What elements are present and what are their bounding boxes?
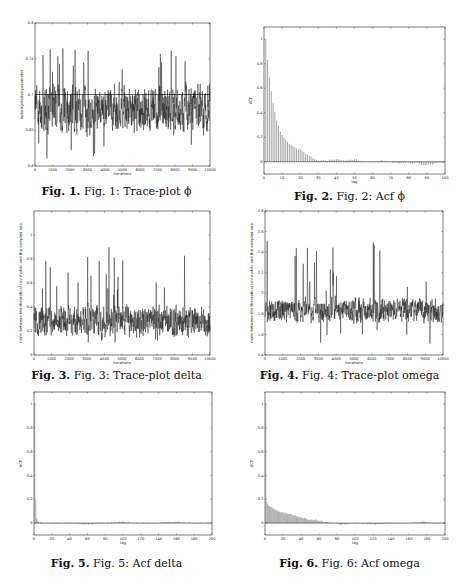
plot-area [34, 404, 212, 525]
x-tick-label: 0 [33, 537, 36, 541]
x-tick-label: 120 [370, 537, 378, 541]
x-tick-label: 20 [281, 537, 286, 541]
caption-text: Fig. 5: Acf delta [93, 557, 182, 570]
x-tick-label: 160 [173, 537, 181, 541]
x-tick-label: 180 [424, 537, 432, 541]
y-tick-label: 0.6 [27, 450, 33, 454]
x-tick-label: 40 [299, 537, 304, 541]
y-tick-label: 0.4 [27, 474, 33, 478]
figure-6-acf-omega: 02040608010012014016018020000.20.40.60.8… [233, 0, 466, 560]
y-tick-label: 0 [261, 521, 264, 525]
y-tick-label: 0.4 [258, 474, 264, 478]
x-tick-label: 80 [335, 537, 340, 541]
x-tick-label: 20 [50, 537, 55, 541]
x-tick-label: 200 [442, 537, 450, 541]
plot-area [265, 404, 445, 525]
y-tick-label: 0 [30, 521, 33, 525]
plot-frame [265, 392, 445, 535]
y-tick-label: 0.6 [258, 450, 264, 454]
y-tick-label: 0.2 [27, 497, 33, 501]
caption-label: Fig. 6. [279, 557, 318, 570]
caption-fig-6: Fig. 6. Fig. 6: Acf omega [233, 557, 466, 570]
y-tick-label: 0.8 [27, 426, 33, 430]
y-axis-label: ACF [249, 460, 254, 467]
x-tick-label: 80 [103, 537, 108, 541]
x-tick-label: 60 [85, 537, 90, 541]
y-tick-label: 1 [261, 402, 263, 406]
x-tick-label: 120 [137, 537, 145, 541]
chart-acf-omega: 02040608010012014016018020000.20.40.60.8… [233, 0, 466, 560]
y-tick-label: 1 [30, 402, 32, 406]
x-tick-label: 200 [209, 537, 217, 541]
plot-frame [34, 392, 212, 535]
figure-5-acf-delta: 02040608010012014016018020000.20.40.60.8… [0, 0, 233, 560]
chart-acf-delta: 02040608010012014016018020000.20.40.60.8… [0, 0, 233, 560]
x-tick-label: 140 [155, 537, 163, 541]
x-tick-label: 160 [406, 537, 414, 541]
x-tick-label: 140 [388, 537, 396, 541]
y-tick-label: 0.2 [258, 497, 264, 501]
x-tick-label: 0 [264, 537, 267, 541]
x-tick-label: 40 [67, 537, 72, 541]
y-tick-label: 0.8 [258, 426, 264, 430]
x-axis-label: lag [352, 540, 358, 545]
caption-label: Fig. 5. [51, 557, 90, 570]
caption-fig-5: Fig. 5. Fig. 5: Acf delta [0, 557, 233, 570]
y-axis-label: ACF [18, 460, 23, 467]
x-tick-label: 180 [191, 537, 199, 541]
x-axis-label: lag [120, 540, 126, 545]
caption-text: Fig. 6: Acf omega [322, 557, 420, 570]
x-tick-label: 60 [317, 537, 322, 541]
